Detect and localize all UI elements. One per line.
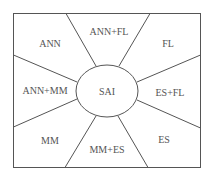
region-label-mm-es: MM+ES bbox=[89, 144, 124, 155]
divider-bottom-left bbox=[65, 116, 96, 168]
divider-right-lower bbox=[137, 100, 201, 128]
region-label-ann: ANN bbox=[39, 38, 61, 49]
region-label-ann-mm: ANN+MM bbox=[22, 85, 67, 96]
divider-left-upper bbox=[14, 55, 78, 82]
region-label-es: ES bbox=[158, 134, 170, 145]
region-label-mm: MM bbox=[41, 135, 59, 146]
region-label-es-fl: ES+FL bbox=[156, 87, 185, 98]
region-label-ann-fl: ANN+FL bbox=[90, 26, 129, 37]
divider-left-lower bbox=[14, 99, 78, 127]
divider-top-right bbox=[119, 14, 150, 67]
center-label: SAI bbox=[99, 86, 115, 97]
divider-top-left bbox=[66, 14, 96, 67]
region-label-fl: FL bbox=[162, 38, 174, 49]
divider-right-upper bbox=[137, 55, 201, 82]
divider-bottom-right bbox=[118, 116, 148, 168]
sai-hybrid-diagram: SAI ANN ANN+FL FL ANN+MM ES+FL MM MM+ES … bbox=[0, 0, 208, 180]
